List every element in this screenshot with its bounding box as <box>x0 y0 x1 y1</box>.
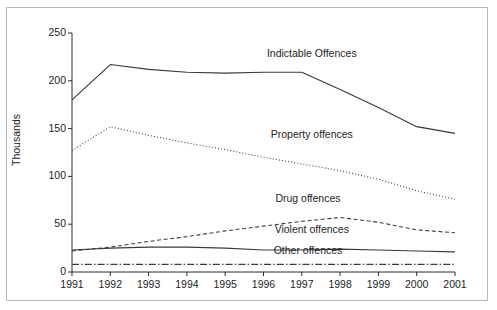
x-tick-marks <box>72 272 455 276</box>
chart-axes <box>72 33 455 272</box>
y-axis-title: Thousands <box>10 100 22 180</box>
series-label-other-offences: Other offences <box>238 244 378 256</box>
series-label-indictable-offences: Indictable Offences <box>242 47 382 59</box>
y-tick-marks <box>68 33 72 272</box>
series-line-indictable-offences <box>72 65 455 134</box>
y-tick-label: 150 <box>26 122 66 134</box>
series-label-property-offences: Property offences <box>242 128 382 140</box>
series-label-drug-offences: Drug offences <box>238 192 378 204</box>
y-tick-label: 0 <box>26 265 66 277</box>
y-tick-label: 50 <box>26 217 66 229</box>
chart-figure: Thousands 050100150200250 19911992199319… <box>0 0 497 310</box>
series-label-violent-offences: Violent offences <box>242 223 382 235</box>
y-tick-label: 100 <box>26 169 66 181</box>
y-tick-label: 200 <box>26 74 66 86</box>
x-tick-label: 2001 <box>433 278 477 290</box>
y-tick-label: 250 <box>26 26 66 38</box>
